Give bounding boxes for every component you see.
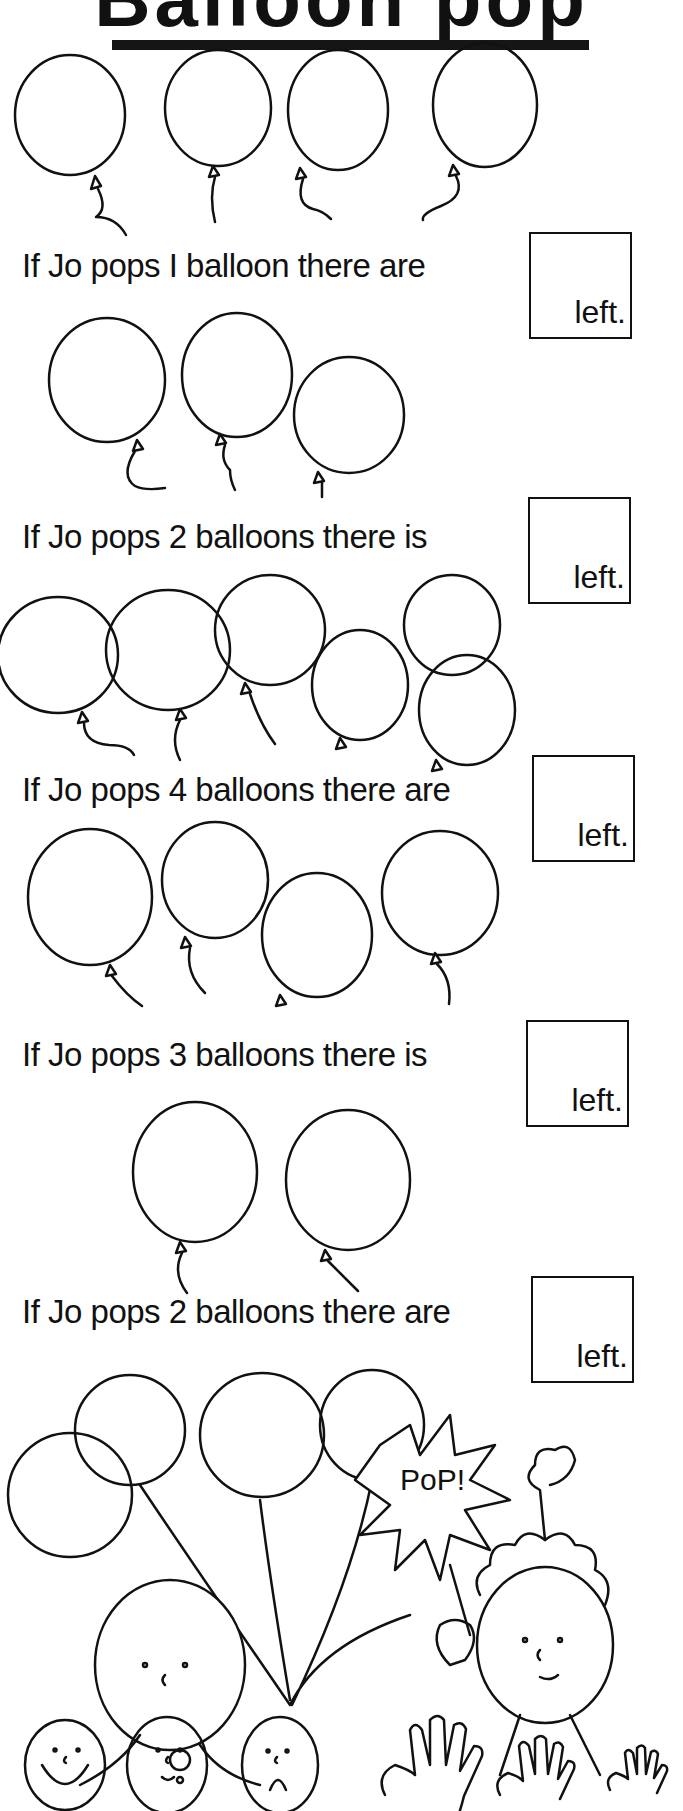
balloon-icon [106,590,230,760]
balloons-group-5 [0,1100,683,1270]
balloon-icon [75,1375,185,1485]
balloon-icon [182,313,292,490]
balloon-icon [200,1373,324,1497]
balloons-group-4 [0,825,683,1005]
balloon-icon [133,1102,257,1293]
balloons-group-1 [0,50,683,230]
small-hand-icon [608,1746,667,1794]
balloon-icon [162,822,268,993]
sad-face-icon [242,1717,318,1811]
pop-text: PoP! [400,1463,465,1496]
worksheet-title: Balloon pop [0,0,683,45]
question-3: If Jo pops 4 balloons there are [22,771,450,809]
balloon-icon [382,831,498,1004]
balloons-group-2 [0,310,683,485]
balloon-icon [49,318,165,489]
large-hand-icon [382,1716,483,1811]
title-underline [112,40,589,50]
balloon-pop-illustration: PoP! [0,1365,683,1811]
happy-face-icon [25,1720,105,1810]
balloon-icon [262,873,372,1006]
balloon-icon [288,50,388,219]
balloon-icon [8,1433,132,1557]
balloon-icon [28,829,152,1006]
child-left-icon [80,1580,260,1785]
question-2: If Jo pops 2 balloons there is [22,518,427,556]
balloon-icon [294,357,404,497]
balloon-icon [286,1110,410,1291]
question-4: If Jo pops 3 balloons there is [22,1036,427,1074]
balloon-icon [165,50,271,222]
balloon-icon [312,630,408,749]
balloon-icon [423,43,537,220]
question-1: If Jo pops I balloon there are [22,247,425,285]
question-5: If Jo pops 2 balloons there are [22,1293,450,1331]
balloon-icon [15,55,126,235]
burst-icon: PoP! [355,1415,510,1580]
balloons-group-3 [0,565,683,745]
balloon-icon [215,575,325,744]
